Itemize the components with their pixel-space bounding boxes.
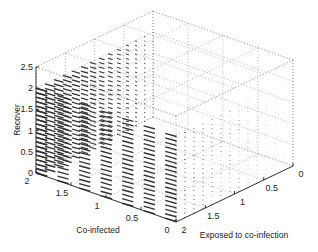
- vector-arrow: [72, 84, 80, 86]
- vector-arrow: [144, 202, 155, 205]
- vector-arrow: [126, 81, 129, 82]
- vector-arrow: [144, 175, 155, 178]
- vector-arrow: [122, 176, 133, 179]
- vector-arrow: [135, 94, 137, 95]
- vector-arrow: [165, 169, 176, 172]
- y-tick-label: 0: [164, 225, 169, 235]
- vector-arrow: [122, 199, 133, 202]
- vector-arrow: [165, 209, 176, 212]
- vector-arrow: [144, 166, 155, 169]
- vector-arrow: [90, 147, 96, 149]
- vector-arrow: [72, 71, 80, 73]
- vector-arrow: [90, 103, 96, 105]
- vector-arrow: [101, 155, 112, 158]
- vector-arrow: [126, 94, 129, 95]
- vector-arrow: [90, 143, 96, 145]
- vector-arrow: [81, 93, 88, 95]
- vector-arrow: [79, 157, 90, 160]
- vector-arrow: [81, 89, 88, 91]
- vector-arrow: [144, 188, 155, 191]
- y-tick-label: 1.5: [56, 188, 69, 198]
- vector-arrow: [117, 121, 121, 122]
- z-tick-label: 2.5: [20, 62, 33, 72]
- vector-arrow: [101, 164, 112, 167]
- vector-arrow: [108, 76, 113, 77]
- vector-arrow: [63, 80, 72, 83]
- vector-arrow: [117, 76, 121, 77]
- vector-arrow: [126, 54, 129, 55]
- vector-arrow: [135, 126, 137, 127]
- vector-arrow: [99, 71, 105, 73]
- vector-arrow: [117, 134, 121, 135]
- vector-arrow: [117, 49, 121, 50]
- vector-arrow: [135, 85, 137, 86]
- vector-arrow: [79, 175, 90, 178]
- vector-arrow: [99, 58, 105, 60]
- vector-arrow: [90, 138, 96, 140]
- vector-arrow: [165, 205, 176, 208]
- floor-gridline: [95, 145, 235, 194]
- vector-arrow: [126, 76, 129, 77]
- y-tick-label: 2: [24, 176, 29, 186]
- vector-arrow: [45, 84, 55, 87]
- vector-arrow: [122, 136, 133, 139]
- z-tick-label: 2: [28, 83, 33, 93]
- vector-arrow: [117, 63, 121, 64]
- vector-arrow: [108, 81, 113, 82]
- vector-arrow: [63, 84, 72, 87]
- vector-arrow: [144, 139, 155, 142]
- vector-arrow: [135, 41, 137, 42]
- vector-arrow: [126, 103, 129, 104]
- vector-arrow: [54, 80, 64, 83]
- floor-gridline: [124, 131, 264, 180]
- vector-arrow: [126, 90, 129, 91]
- vector-arrow: [126, 45, 129, 46]
- vector-arrow: [126, 130, 129, 131]
- vector-arrow: [72, 111, 80, 113]
- vector-arrow: [165, 196, 176, 199]
- vector-arrow: [122, 172, 133, 175]
- vector-arrow: [135, 77, 137, 78]
- vector-arrow: [122, 181, 133, 184]
- z-axis-label: Recover: [12, 104, 22, 136]
- z-tick-label: 1: [28, 126, 33, 136]
- vector-arrow: [117, 99, 121, 100]
- vector-arrow: [117, 58, 121, 59]
- vector-arrow: [165, 214, 176, 217]
- vector-arrow: [165, 165, 176, 168]
- vector-arrow: [90, 89, 96, 91]
- vector-arrow: [81, 80, 88, 82]
- vector-arrow: [122, 167, 133, 170]
- vector-arrow: [72, 102, 80, 104]
- vector-arrow: [72, 129, 80, 131]
- vector-arrow: [108, 85, 113, 86]
- vector-arrow: [126, 112, 129, 113]
- y-tick-label: 1: [94, 201, 99, 211]
- vector-arrow: [135, 121, 137, 122]
- vector-arrow: [144, 206, 155, 209]
- vector-arrow: [108, 103, 113, 104]
- vector-arrow: [117, 116, 121, 117]
- vector-arrow: [101, 182, 112, 185]
- vector-arrow: [165, 160, 176, 163]
- vector-arrow: [90, 134, 96, 136]
- vector-arrow: [90, 125, 96, 127]
- vector-arrow: [90, 98, 96, 100]
- vector-arrow: [117, 108, 121, 109]
- vector-arrow: [99, 103, 105, 105]
- vector-arrow: [72, 138, 80, 140]
- vector-arrow: [63, 89, 72, 92]
- vector-arrow: [101, 173, 112, 176]
- vector-arrow: [72, 156, 80, 158]
- vector-arrow: [165, 133, 176, 136]
- vector-arrow: [165, 174, 176, 177]
- vector-arrow: [108, 107, 113, 108]
- vector-arrow: [144, 126, 155, 129]
- vector-arrow: [72, 116, 80, 118]
- vector-arrow: [135, 59, 137, 60]
- vector-arrow: [126, 63, 129, 64]
- vector-arrow: [144, 135, 155, 138]
- vector-arrow: [122, 190, 133, 193]
- vector-arrow: [144, 193, 155, 196]
- vector-arrow: [135, 99, 137, 100]
